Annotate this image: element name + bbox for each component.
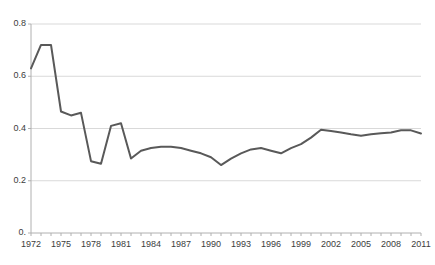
x-tick-label: 1978 xyxy=(74,239,108,249)
x-tick-label: 1972 xyxy=(14,239,48,249)
x-tick-label: 1990 xyxy=(194,239,228,249)
data-line-series-1 xyxy=(31,45,421,165)
x-tick-label: 1975 xyxy=(44,239,78,249)
y-tick-label: 0.6 xyxy=(0,71,26,80)
y-tick-label: 0. xyxy=(0,228,26,237)
x-tick-label: 2008 xyxy=(374,239,408,249)
x-tick-label: 1987 xyxy=(164,239,198,249)
y-tick-label: 0.4 xyxy=(0,124,26,133)
x-tick-label: 1981 xyxy=(104,239,138,249)
x-tick-label: 2005 xyxy=(344,239,378,249)
data-series-group xyxy=(31,45,421,165)
x-tick-label: 2011 xyxy=(404,239,435,249)
x-tick-label: 1996 xyxy=(254,239,288,249)
y-tick-label: 0.8 xyxy=(0,19,26,28)
x-tick-label: 1999 xyxy=(284,239,318,249)
y-tick-label: 0.2 xyxy=(0,176,26,185)
x-tick-label: 1984 xyxy=(134,239,168,249)
x-tick-label: 2002 xyxy=(314,239,348,249)
x-tick-label: 1993 xyxy=(224,239,258,249)
